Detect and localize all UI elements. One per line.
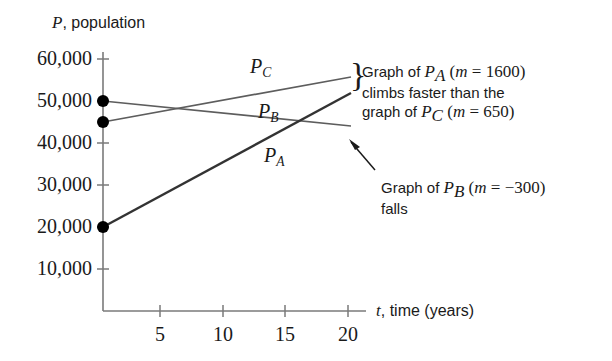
annotation-climb-line3-open: (: [443, 102, 453, 121]
curve-label-pc: PC: [250, 56, 271, 80]
curve-label-pa-sub: A: [276, 154, 284, 169]
annotation-climb-line3: graph of PC (m = 650): [362, 102, 525, 125]
annotation-climb-line3-prefix: graph of: [362, 103, 421, 120]
curve-label-pb: PB: [258, 101, 279, 125]
curve-label-pc-base: P: [250, 55, 262, 77]
annotation-climb-line3-subscript: C: [432, 106, 443, 125]
annotation-fall-line1-prefix: Graph of: [381, 179, 444, 196]
y-tick-label-40000: 40,000: [0, 132, 92, 153]
annotation-climb-line3-equals: =: [465, 102, 483, 121]
annotation-climb-line1-slope-value: 1600: [486, 62, 520, 81]
curve-label-pb-sub: B: [270, 110, 278, 125]
annotation-climb-line1-open: (: [445, 62, 455, 81]
annotation-climb-line3-slope-symbol: m: [453, 102, 465, 121]
annotation-fall-line1-slope-symbol: m: [474, 178, 486, 197]
x-tick-label-20: 20: [325, 324, 371, 345]
curve-label-pa-base: P: [264, 144, 276, 166]
annotation-climb-line2: climbs faster than the: [362, 85, 525, 102]
y-tick-label-30000: 30,000: [0, 174, 92, 195]
annotation-climb: Graph of PA (m = 1600) climbs faster tha…: [362, 62, 525, 125]
x-tick-label-10: 10: [200, 324, 246, 345]
annotation-climb-line3-close: ): [509, 102, 515, 121]
y-tick-label-20000: 20,000: [0, 216, 92, 237]
curve-label-pb-base: P: [258, 100, 270, 122]
x-tick-label-15: 15: [262, 324, 308, 345]
x-axis-caption-text: , time (years): [381, 302, 474, 319]
marker-pa-start: [97, 221, 109, 233]
curve-label-pa: PA: [264, 145, 285, 169]
annotation-climb-line1-close: ): [520, 62, 526, 81]
annotation-fall-line2: falls: [381, 201, 545, 218]
annotation-climb-line1-prefix: Graph of: [362, 63, 425, 80]
callout-arrow-pb: [349, 139, 375, 170]
annotation-climb-line1-subscript: A: [435, 66, 445, 85]
annotation-climb-line3-slope-value: 650: [483, 102, 509, 121]
y-axis-caption-text: , population: [62, 14, 145, 31]
annotation-climb-line1-slope-symbol: m: [455, 62, 467, 81]
y-tick-label-50000: 50,000: [0, 90, 92, 111]
y-tick-label-10000: 10,000: [0, 258, 92, 279]
line-pc: [103, 77, 351, 122]
x-axis-caption: t, time (years): [376, 302, 474, 320]
x-tick-label-5: 5: [137, 324, 183, 345]
annotation-fall-line1: Graph of PB (m = −300): [381, 178, 545, 201]
annotation-fall-line1-close: ): [540, 178, 546, 197]
annotation-fall-line1-subscript: B: [454, 182, 464, 201]
annotation-fall: Graph of PB (m = −300) falls: [381, 178, 545, 218]
annotation-fall-line1-open: (: [464, 178, 474, 197]
y-tick-label-60000: 60,000: [0, 48, 92, 69]
annotation-climb-line1-variable: P: [425, 62, 435, 81]
annotation-climb-line1: Graph of PA (m = 1600): [362, 62, 525, 85]
annotation-fall-line1-slope-value: −300: [505, 178, 540, 197]
marker-pc-start: [97, 116, 109, 128]
curve-label-pc-sub: C: [262, 65, 271, 80]
annotation-climb-line3-variable: P: [421, 102, 431, 121]
y-axis-caption-variable: P: [52, 13, 62, 32]
population-lines-figure: P, population 60,000 50,000 40,000 30,00…: [0, 0, 612, 361]
annotation-fall-line1-variable: P: [444, 178, 454, 197]
marker-pb-start: [97, 95, 109, 107]
y-axis-caption: P, population: [52, 14, 145, 32]
annotation-fall-line1-equals: =: [487, 178, 505, 197]
annotation-climb-line1-equals: =: [468, 62, 486, 81]
